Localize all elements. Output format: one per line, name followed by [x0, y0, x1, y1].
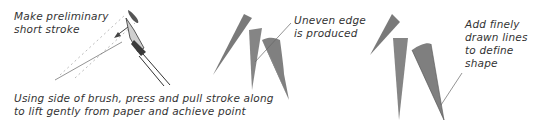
- brush-technique-diagram: Make preliminary short stroke Using side…: [0, 0, 535, 120]
- strokes-panel-2: [213, 14, 291, 100]
- annotation-line: to define: [465, 44, 528, 57]
- annotation-preliminary-stroke: Make preliminary short stroke: [14, 10, 109, 36]
- annotation-line: is produced: [294, 27, 366, 40]
- strokes-panel-3: [370, 14, 462, 120]
- annotation-line: Add finely: [465, 18, 528, 31]
- annotation-line: short stroke: [14, 23, 109, 36]
- annotation-line: Uneven edge: [294, 14, 366, 27]
- annotation-uneven-edge: Uneven edge is produced: [294, 14, 366, 40]
- annotation-line: drawn lines: [465, 31, 528, 44]
- annotation-line: shape: [465, 57, 528, 70]
- annotation-fine-lines: Add finely drawn lines to define shape: [465, 18, 528, 70]
- annotation-line: Make preliminary: [14, 10, 109, 23]
- annotation-line: to lift gently from paper and achieve po…: [14, 105, 274, 118]
- annotation-press-and-pull: Using side of brush, press and pull stro…: [14, 92, 274, 118]
- annotation-line: Using side of brush, press and pull stro…: [14, 92, 274, 105]
